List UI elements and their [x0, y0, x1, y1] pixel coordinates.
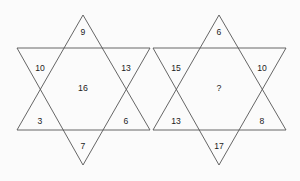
right-star-point-top: 6: [217, 27, 222, 37]
left-star-group: 9 10 13 3 6 7 16: [17, 15, 150, 165]
right-star-point-upper-left: 15: [171, 63, 181, 73]
right-star-point-lower-right: 8: [260, 116, 265, 126]
left-star-point-upper-right: 13: [121, 63, 131, 73]
right-star-point-bottom: 17: [214, 141, 224, 151]
left-star-point-upper-left: 10: [35, 63, 45, 73]
left-star-point-bottom: 7: [81, 141, 86, 151]
right-star-point-upper-right: 10: [257, 63, 267, 73]
right-star-point-lower-left: 13: [171, 116, 181, 126]
right-star-group: 6 15 10 13 8 17 ?: [153, 15, 286, 165]
left-star-center-value: 16: [78, 83, 88, 93]
left-star-point-lower-left: 3: [38, 116, 43, 126]
right-star-center-value: ?: [217, 83, 222, 93]
star-puzzle-canvas: 9 10 13 3 6 7 16 6 15 10 13 8 17 ?: [0, 0, 300, 181]
star-puzzle-figure: 9 10 13 3 6 7 16 6 15 10 13 8 17 ?: [0, 0, 300, 181]
left-star-point-lower-right: 6: [124, 116, 129, 126]
left-star-point-top: 9: [81, 27, 86, 37]
